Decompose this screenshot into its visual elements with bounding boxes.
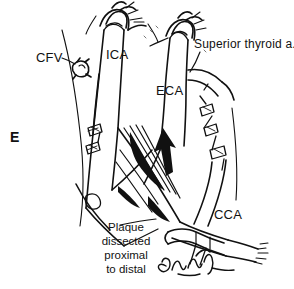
dissection-direction-arrow — [154, 128, 176, 176]
superior-thyroid-artery — [188, 70, 234, 101]
ica-cut-edge — [104, 23, 124, 30]
caption-plaque-dissection: Plaque dissected proximal to distal — [83, 220, 169, 276]
caption-line-3: proximal — [83, 248, 169, 262]
caption-line-4: to distal — [83, 262, 169, 276]
label-superior-thyroid-artery: Superior thyroid a. — [194, 38, 294, 51]
suture-stitch-chain-right — [200, 84, 226, 170]
cca-distal-shading — [254, 243, 268, 264]
label-cca: CCA — [214, 208, 242, 222]
label-eca: ECA — [156, 84, 183, 98]
figure-carotid-endarterectomy: ICA ECA CCA CFV Superior thyroid a. E Pl… — [0, 0, 294, 289]
panel-letter: E — [10, 130, 20, 145]
eca-clamp-leader — [150, 38, 168, 46]
label-ica: ICA — [106, 48, 128, 62]
caption-line-2: dissected — [83, 234, 169, 248]
cca-vessel — [172, 222, 258, 262]
caption-line-1: Plaque — [83, 220, 169, 234]
vessel-clip-cfv — [72, 58, 91, 79]
label-cfv: CFV — [36, 51, 63, 65]
